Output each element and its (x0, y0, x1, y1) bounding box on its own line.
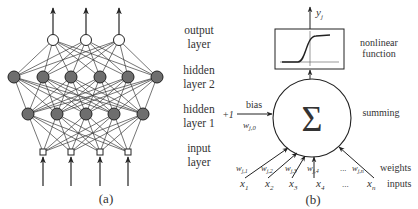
neural-network-figure: output layer hidden layer 2 hidden layer… (0, 0, 418, 209)
summing-label: summing (362, 107, 399, 118)
input-layer-label-2: layer (188, 156, 211, 169)
panel-b-neuron: yj nonlinear function Σ summing bias +1 … (222, 6, 411, 207)
input-layer-nodes (40, 149, 131, 155)
weight-1: wj,1 (236, 163, 248, 174)
nonlinear-label-1: nonlinear (360, 37, 398, 48)
nonlinear-function-box (275, 29, 344, 69)
hidden-layer-1-nodes (22, 108, 149, 120)
output-layer-label-1: output (184, 24, 214, 37)
weights-label: weights (380, 162, 411, 173)
hidden-layer-2-label-1: hidden (183, 64, 215, 76)
panel-a-caption: (a) (99, 191, 113, 206)
input-2: x2 (264, 177, 274, 192)
hidden-layer-2-label-2: layer 2 (183, 78, 215, 91)
weight-2: wj,2 (261, 163, 273, 174)
output-layer-nodes (48, 35, 125, 46)
input-arrows (43, 157, 128, 186)
weight-3: wj,3 (285, 163, 297, 174)
hidden-layer-2-nodes (8, 71, 163, 83)
inputs-row: x1 x2 x3 x4 ... xn inputs (239, 177, 412, 192)
bias-label: bias (246, 99, 262, 110)
weight-4: wj,4 (307, 163, 319, 174)
weights-row: wj,1 wj,2 wj,3 wj,4 ... wj,n weights (236, 162, 411, 174)
bias-input-label: +1 (222, 109, 234, 120)
output-layer-label-2: layer (188, 38, 211, 51)
weights-ellipsis: ... (340, 163, 346, 173)
inputs-ellipsis: ... (342, 179, 349, 189)
input-1: x1 (239, 177, 248, 192)
inputs-label: inputs (387, 178, 412, 189)
network-edges (14, 40, 157, 152)
output-y-label: yj (315, 6, 323, 21)
input-layer-label-1: input (187, 142, 211, 155)
panel-b-caption: (b) (305, 192, 320, 207)
hidden-layer-1-label-2: layer 1 (183, 117, 215, 130)
layer-labels: output layer hidden layer 2 hidden layer… (183, 24, 215, 169)
bias-weight-label: wj,0 (243, 120, 256, 131)
hidden-layer-1-label-1: hidden (183, 103, 215, 115)
sigma-symbol: Σ (302, 99, 323, 139)
panel-a-network: output layer hidden layer 2 hidden layer… (8, 8, 215, 206)
input-3: x3 (288, 177, 298, 192)
weight-n: wj,n (352, 163, 364, 174)
input-n: xn (366, 177, 376, 192)
input-4: x4 (315, 177, 325, 192)
output-arrows (53, 8, 119, 34)
nonlinear-label-2: function (362, 48, 395, 59)
